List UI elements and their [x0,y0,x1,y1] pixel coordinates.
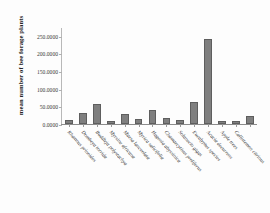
x-tick-mark [208,124,209,127]
y-tick-mark [59,90,62,91]
x-tick-mark [194,124,195,127]
x-tick-mark [83,124,84,127]
y-tick-label: 100.0000 [37,87,58,93]
x-axis-tick-labels: Rhamnus prinoidesDombeya torridaBuddleja… [62,128,257,213]
x-tick-mark [69,124,70,127]
bar-slot [229,28,243,124]
y-tick-label: 200.0000 [37,51,58,57]
bar[interactable] [149,110,157,124]
bar-chart-figure: mean number of bee forage plants 0.00005… [0,0,270,213]
y-tick-label: 0.0000 [43,122,58,128]
bar[interactable] [190,102,198,124]
bar[interactable] [93,104,101,124]
y-tick-label: 50.0000 [40,104,58,110]
x-axis-line [61,124,257,125]
bar[interactable] [121,114,129,124]
bar-slot [76,28,90,124]
y-tick-label: 250.0000 [37,34,58,40]
bar-slot [104,28,118,124]
x-tick-mark [111,124,112,127]
x-tick-mark [250,124,251,127]
x-tick-mark [139,124,140,127]
bar-slot [132,28,146,124]
x-tick-mark [97,124,98,127]
y-tick-label: 150.0000 [37,69,58,75]
y-tick-mark [59,125,62,126]
bar-slot [201,28,215,124]
bar-slot [215,28,229,124]
y-axis-title-wrap: mean number of bee forage plants [0,0,22,140]
bar-slot [187,28,201,124]
bar-slot [146,28,160,124]
bar-slot [90,28,104,124]
bar-slot [159,28,173,124]
bar-slot [62,28,76,124]
x-tick-mark [125,124,126,127]
y-tick-mark [59,37,62,38]
bar-slot [243,28,257,124]
x-tick-mark [222,124,223,127]
y-tick-mark [59,72,62,73]
x-tick-mark [166,124,167,127]
bar[interactable] [246,116,254,124]
bar-group [62,28,257,124]
x-tick-mark [152,124,153,127]
x-tick-mark [236,124,237,127]
bar[interactable] [204,39,212,124]
plot-area [61,28,257,125]
y-axis-tick-labels: 0.000050.0000100.0000150.0000200.0000250… [20,26,60,128]
x-tick-mark [180,124,181,127]
bar-slot [118,28,132,124]
y-tick-mark [59,107,62,108]
bar-slot [173,28,187,124]
bar[interactable] [79,113,87,124]
y-tick-mark [59,54,62,55]
